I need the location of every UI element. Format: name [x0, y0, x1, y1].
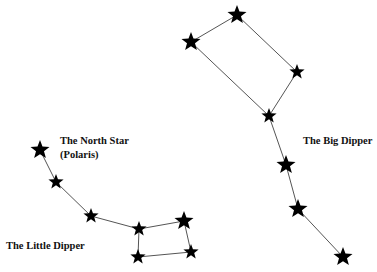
- big-dipper-star-icon: [181, 32, 200, 50]
- little-dipper-star-icon: [183, 244, 198, 258]
- little-dipper-star-icon: [174, 211, 193, 229]
- big-dipper-connection-line: [286, 165, 298, 209]
- little-dipper-connection-line: [91, 216, 139, 229]
- little-dipper-star-icon: [130, 249, 145, 263]
- polaris-label: (Polaris): [60, 149, 99, 161]
- big-dipper-star-icon: [261, 108, 276, 122]
- big-dipper-star-icon: [288, 199, 307, 217]
- big-dipper-star-icon: [289, 64, 304, 78]
- big-dipper-star-icon: [276, 155, 295, 173]
- big-dipper-connection-line: [237, 15, 297, 72]
- north-star-label: The North Star: [60, 135, 129, 146]
- little-dipper-connection-line: [139, 221, 184, 229]
- big-dipper-connection-line: [269, 116, 286, 165]
- big-dipper-connection-line: [269, 72, 297, 116]
- big-dipper-star-icon: [227, 5, 246, 23]
- polaris-star-icon: [30, 140, 49, 158]
- big-dipper-connection-line: [191, 42, 269, 116]
- constellation-diagram: The Big Dipper The Little Dipper The Nor…: [0, 0, 377, 272]
- little-dipper-connection-line: [56, 182, 91, 216]
- big-dipper-connection-line: [298, 209, 343, 257]
- big-dipper-label: The Big Dipper: [303, 135, 373, 146]
- little-dipper-connection-line: [138, 252, 191, 257]
- big-dipper-connection-line: [191, 15, 237, 42]
- little-dipper-star-icon: [48, 174, 63, 188]
- little-dipper-label: The Little Dipper: [6, 240, 85, 251]
